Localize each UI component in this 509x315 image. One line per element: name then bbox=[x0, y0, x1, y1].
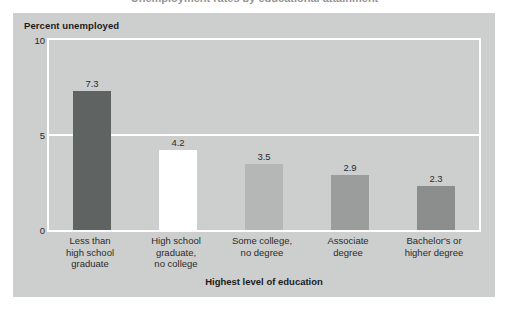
bar-slot: 2.9 bbox=[307, 40, 393, 230]
x-category-label: Some college, no degree bbox=[219, 235, 305, 258]
bar[interactable] bbox=[73, 91, 111, 230]
x-category-label: Associate degree bbox=[305, 235, 391, 258]
plot-area: 05107.34.23.52.92.3 bbox=[47, 38, 481, 232]
bar-slot: 4.2 bbox=[135, 40, 221, 230]
x-category-label: Bachelor's or higher degree bbox=[391, 235, 477, 258]
x-category-label: Less than high school graduate bbox=[47, 235, 133, 270]
x-category-label: High school graduate, no college bbox=[133, 235, 219, 270]
y-tick-label: 5 bbox=[40, 130, 45, 141]
bar-value-label: 7.3 bbox=[85, 78, 98, 89]
bar[interactable] bbox=[245, 164, 283, 231]
y-axis-title: Percent unemployed bbox=[24, 20, 119, 31]
bar-slot: 2.3 bbox=[393, 40, 479, 230]
bar-slot: 7.3 bbox=[49, 40, 135, 230]
x-axis-title: Highest level of education bbox=[47, 276, 481, 287]
plot-inner: 05107.34.23.52.92.3 bbox=[49, 40, 479, 230]
bar-slot: 3.5 bbox=[221, 40, 307, 230]
bar[interactable] bbox=[159, 150, 197, 230]
bar-value-label: 2.3 bbox=[429, 173, 442, 184]
chart-figure-panel: Percent unemployed 05107.34.23.52.92.3 H… bbox=[13, 13, 495, 297]
clipped-figure-title: Unemployment rates by educational attain… bbox=[0, 0, 509, 4]
y-tick-label: 0 bbox=[40, 225, 45, 236]
bar-value-label: 2.9 bbox=[343, 162, 356, 173]
y-tick-label: 10 bbox=[34, 35, 45, 46]
bar-value-label: 3.5 bbox=[257, 151, 270, 162]
bar-value-label: 4.2 bbox=[171, 137, 184, 148]
bar[interactable] bbox=[417, 186, 455, 230]
bar[interactable] bbox=[331, 175, 369, 230]
